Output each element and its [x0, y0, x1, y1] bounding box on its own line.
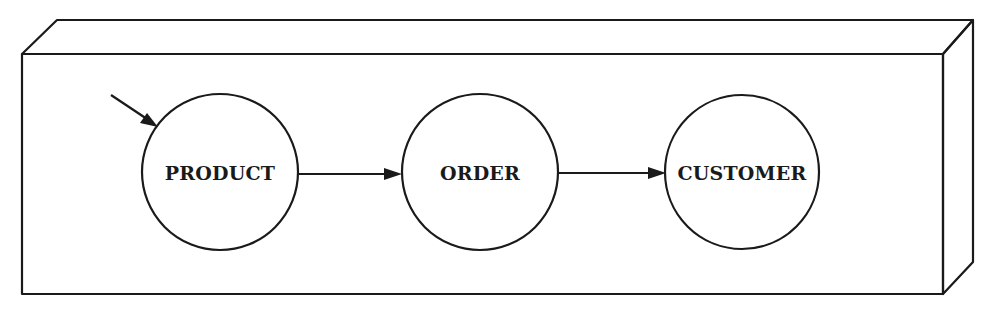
node-label-product: PRODUCT: [165, 162, 275, 184]
node-order: ORDER: [402, 94, 558, 250]
node-customer: CUSTOMER: [665, 95, 819, 249]
node-label-customer: CUSTOMER: [677, 162, 806, 184]
edge-order-customer: [558, 167, 666, 179]
entry-arrow: [111, 95, 158, 127]
arrowhead-icon: [648, 167, 666, 179]
node-product: PRODUCT: [142, 94, 298, 250]
box-top-face: [22, 20, 973, 54]
data-flow-diagram: PRODUCT ORDER CUSTOMER: [0, 0, 991, 314]
edge-product-order: [298, 168, 402, 180]
arrowhead-icon: [384, 168, 402, 180]
box-side-face: [943, 20, 973, 294]
node-label-order: ORDER: [440, 162, 520, 184]
